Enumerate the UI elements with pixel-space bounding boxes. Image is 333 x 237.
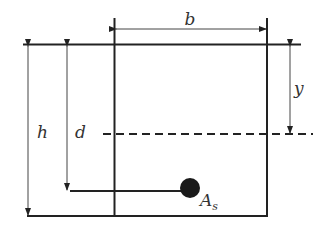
width-label: b bbox=[185, 9, 196, 29]
effective-depth-label: d bbox=[75, 122, 86, 142]
steel-area-label: As bbox=[198, 190, 218, 213]
beam-section-diagram: b h d y As bbox=[0, 0, 333, 237]
rebar-circle bbox=[180, 178, 200, 198]
steel-area-subscript: s bbox=[212, 200, 218, 213]
steel-area-main: A bbox=[198, 190, 212, 210]
neutral-axis-depth-label: y bbox=[293, 78, 304, 98]
height-label: h bbox=[37, 122, 48, 142]
